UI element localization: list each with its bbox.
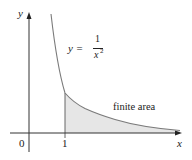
equation-lhs: y = [68,43,83,54]
tick-label-1: 1 [62,138,68,149]
equation-denominator: x [94,50,98,60]
origin-label: 0 [19,138,25,149]
equation-numerator: 1 [95,34,100,44]
equation-exponent: 2 [100,48,104,55]
y-axis-label: y [18,8,23,19]
plot-canvas [0,0,192,160]
y-axis-arrow-icon [27,12,32,19]
x-axis-label: x [177,138,182,149]
finite-area-label: finite area [113,102,155,113]
shaded-finite-area [65,93,180,133]
equation-label: y = 1 x 2 [68,34,110,64]
